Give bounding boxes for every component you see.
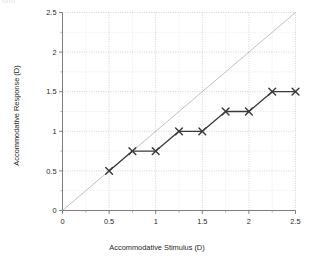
chart-figure: ion) 00.511.522.5 00.511.522.5 Accommoda… (0, 0, 314, 262)
svg-text:1: 1 (52, 127, 56, 136)
svg-text:0.5: 0.5 (46, 167, 56, 176)
x-tick-labels: 00.511.522.5 (60, 217, 300, 226)
svg-text:1.5: 1.5 (46, 87, 56, 96)
svg-text:2.5: 2.5 (46, 8, 56, 17)
y-axis-title: Accommodative Response (D) (12, 16, 21, 216)
accommodation-response-plot: 00.511.522.5 00.511.522.5 (0, 0, 314, 262)
svg-text:1: 1 (154, 217, 158, 226)
svg-text:1.5: 1.5 (197, 217, 207, 226)
y-tick-labels: 00.511.522.5 (46, 8, 56, 215)
svg-text:2.5: 2.5 (290, 217, 300, 226)
svg-text:0: 0 (52, 206, 56, 215)
svg-text:2: 2 (247, 217, 251, 226)
svg-text:0: 0 (60, 217, 64, 226)
x-axis-title: Accommodative Stimulus (D) (0, 243, 314, 252)
svg-text:0.5: 0.5 (104, 217, 114, 226)
svg-text:2: 2 (52, 48, 56, 57)
